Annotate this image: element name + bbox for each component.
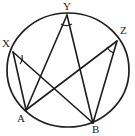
angle-mark-at-Y [61,24,72,25]
chords-group [13,15,117,123]
vertex-label-x: X [2,38,10,49]
geometry-figure: XYZAB [0,0,135,136]
chord-XA [13,52,26,110]
vertex-label-z: Z [120,25,127,36]
angle-mark-at-Z [107,47,114,53]
chord-YA [26,15,67,110]
vertex-label-b: B [92,124,99,135]
vertex-label-a: A [17,113,25,124]
chord-XB [13,52,93,123]
vertex-label-y: Y [63,1,71,12]
angle-marks-group [20,24,114,64]
